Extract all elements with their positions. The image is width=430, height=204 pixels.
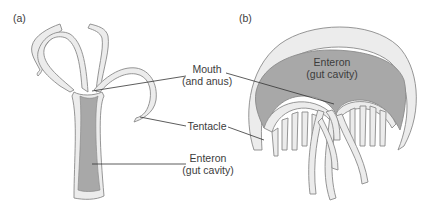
label-mouth: Mouth (and anus) xyxy=(182,63,232,87)
label-enteron-polyp: Enteron (gut cavity) xyxy=(182,152,234,176)
label-tentacle-line1: Tentacle xyxy=(184,120,230,132)
panel-label-a: (a) xyxy=(13,12,26,24)
polyp-tentacle-left-inner xyxy=(38,32,88,92)
leader-tentacle-a xyxy=(140,117,186,126)
label-tentacle: Tentacle xyxy=(184,120,230,132)
label-mouth-line1: Mouth xyxy=(182,63,232,75)
label-enteron-polyp-line2: (gut cavity) xyxy=(182,164,234,176)
label-enteron-medusa-line2: (gut cavity) xyxy=(305,68,359,80)
label-enteron-medusa-line1: Enteron xyxy=(305,56,359,68)
panel-label-b: (b) xyxy=(239,12,252,24)
label-enteron-polyp-line1: Enteron xyxy=(182,152,234,164)
cnidarian-body-plan-diagram: (a) (b) Mouth (and anus) Tentacle Entero… xyxy=(0,0,430,204)
medusa-drawing xyxy=(249,27,417,200)
label-mouth-line2: (and anus) xyxy=(182,75,232,87)
label-enteron-medusa: Enteron (gut cavity) xyxy=(305,56,359,80)
